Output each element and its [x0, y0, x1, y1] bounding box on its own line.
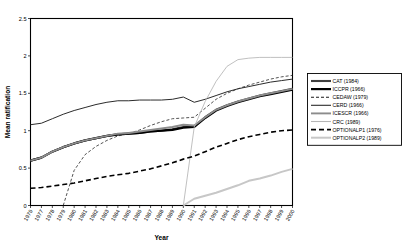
x-tick-label: 1999: [273, 209, 284, 222]
y-axis-ticks: 00.511.522.5: [19, 16, 31, 209]
x-tick-label: 1998: [263, 209, 274, 222]
x-tick-label: 1995: [230, 209, 241, 222]
legend-label-5: CRC (1989): [333, 119, 361, 125]
y-tick-label: 0.5: [19, 165, 27, 171]
x-tick-label: 1985: [121, 209, 132, 222]
y-tick-label: 1.5: [19, 90, 27, 96]
legend: CAT (1984)ICCPR (1966)CEDAW (1979)CERD (…: [308, 74, 402, 146]
x-axis-ticks: 1976197719781979198019811982198319841985…: [22, 206, 295, 222]
x-tick-label: 1989: [164, 209, 175, 222]
x-tick-label: 1977: [33, 209, 44, 222]
x-tick-label: 1992: [197, 209, 208, 222]
legend-label-7: OPTIONALP2 (1989): [333, 135, 382, 141]
x-tick-label: 1993: [208, 209, 219, 222]
x-tick-label: 1979: [55, 209, 66, 222]
x-tick-label: 1987: [142, 209, 153, 222]
x-tick-label: 2000: [284, 209, 295, 222]
x-tick-label: 1981: [77, 209, 88, 222]
legend-label-4: ICESCR (1966): [333, 110, 369, 116]
line-chart: 00.511.522.5 197619771978197919801981198…: [0, 0, 404, 249]
legend-label-6: OPTIONALP1 (1976): [333, 127, 382, 133]
x-tick-label: 1982: [88, 209, 99, 222]
y-axis-title: Mean ratification: [4, 86, 11, 138]
x-tick-label: 1983: [99, 209, 110, 222]
x-tick-label: 1986: [132, 209, 143, 222]
x-tick-label: 1988: [153, 209, 164, 222]
x-tick-label: 1980: [66, 209, 77, 222]
series-line-7: [183, 169, 292, 206]
y-tick-label: 2.5: [19, 16, 27, 22]
series-line-2: [63, 75, 292, 205]
x-tick-label: 1994: [219, 209, 230, 222]
legend-label-2: CEDAW (1979): [333, 94, 369, 100]
x-tick-label: 1976: [22, 209, 33, 222]
x-axis-title: Year: [155, 234, 169, 241]
series-line-5: [183, 57, 292, 205]
x-tick-label: 1978: [44, 209, 55, 222]
y-tick-label: 0: [23, 203, 26, 209]
x-tick-label: 1990: [175, 209, 186, 222]
series-line-3: [31, 79, 293, 125]
y-tick-label: 1: [23, 128, 26, 134]
x-tick-label: 1997: [252, 209, 263, 222]
legend-label-3: CERD (1966): [333, 102, 364, 108]
legend-label-1: ICCPR (1966): [333, 86, 366, 92]
x-tick-label: 1996: [241, 209, 252, 222]
chart-container: 00.511.522.5 197619771978197919801981198…: [0, 0, 404, 249]
x-tick-label: 1991: [186, 209, 197, 222]
x-tick-label: 1984: [110, 209, 121, 222]
legend-label-0: CAT (1984): [333, 78, 360, 84]
series-lines: [31, 57, 293, 205]
y-tick-label: 2: [23, 53, 26, 59]
